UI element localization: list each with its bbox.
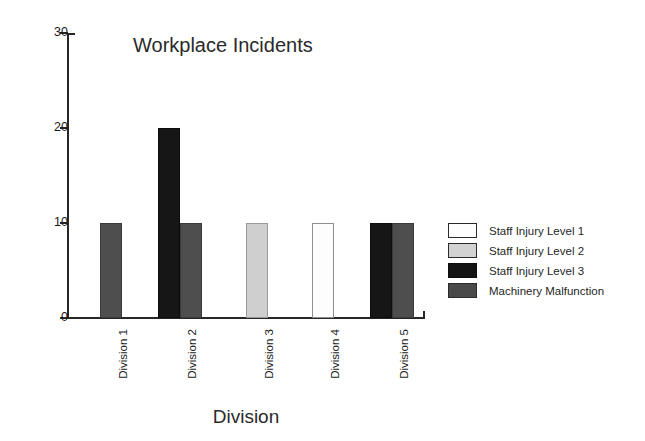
legend-item: Machinery Malfunction (448, 281, 638, 300)
x-axis-category-label: Division 3 (263, 329, 275, 409)
bar (392, 223, 414, 318)
bar (158, 128, 180, 318)
legend-label: Staff Injury Level 1 (489, 224, 584, 238)
bar (100, 223, 122, 318)
chart-legend: Staff Injury Level 1Staff Injury Level 2… (448, 221, 638, 301)
bar-chart-figure: Workplace Incidents 3020100 Division 1Di… (0, 0, 645, 441)
x-axis-category-label: Division 1 (117, 329, 129, 409)
bar (180, 223, 202, 318)
legend-label: Staff Injury Level 3 (489, 264, 584, 278)
bar (312, 223, 334, 318)
legend-item: Staff Injury Level 3 (448, 261, 638, 280)
legend-swatch-icon (448, 223, 477, 238)
x-axis-category-label: Division 4 (329, 329, 341, 409)
legend-label: Staff Injury Level 2 (489, 244, 584, 258)
x-axis-category-label: Division 5 (398, 329, 410, 409)
legend-item: Staff Injury Level 1 (448, 221, 638, 240)
legend-swatch-icon (448, 283, 477, 298)
bar (370, 223, 392, 318)
x-axis-category-label: Division 2 (186, 329, 198, 409)
bar (246, 223, 268, 318)
legend-swatch-icon (448, 243, 477, 258)
legend-swatch-icon (448, 263, 477, 278)
x-axis-title: Division (0, 405, 492, 428)
legend-item: Staff Injury Level 2 (448, 241, 638, 260)
legend-label: Machinery Malfunction (489, 284, 604, 298)
